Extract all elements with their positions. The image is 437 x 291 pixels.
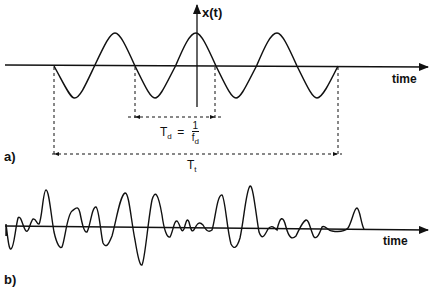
amplitude-axis-label: x(t) — [202, 6, 222, 19]
time-axis-label-b: time — [383, 235, 408, 247]
time-axis-label-a: time — [392, 73, 417, 85]
time-axis-b — [5, 226, 428, 230]
period-arrow-right-icon — [210, 115, 215, 119]
diagram-canvas — [0, 0, 437, 291]
panel-b-label: b) — [4, 273, 16, 286]
total-subscript: t — [194, 165, 196, 174]
frequency-subscript: d — [194, 137, 198, 146]
panel-a-label: a) — [4, 150, 16, 163]
period-label: Td = 1 fd — [160, 121, 199, 144]
panel-b — [5, 186, 428, 265]
period-numerator: 1 — [192, 121, 200, 132]
panel-a — [5, 5, 428, 156]
period-subscript: d — [167, 132, 171, 141]
total-arrow-left-icon — [54, 152, 59, 156]
period-arrow-left-icon — [135, 115, 140, 119]
period-equals: = — [177, 125, 184, 139]
total-arrow-right-icon — [333, 152, 338, 156]
random-signal-curve — [6, 186, 364, 265]
period-denominator: fd — [192, 132, 199, 144]
period-fraction: 1 fd — [192, 121, 200, 144]
total-duration-label: Tt — [187, 159, 197, 171]
period-dimension — [128, 67, 222, 118]
